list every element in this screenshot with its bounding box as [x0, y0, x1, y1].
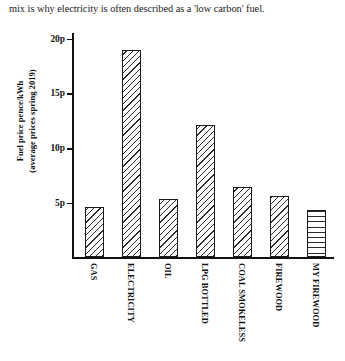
y-axis-tick-20p — [67, 39, 72, 41]
bar-my-firewood — [307, 210, 326, 257]
x-axis-label-lpg-bottled: LPG BOTTLED — [200, 263, 209, 324]
x-axis-label-coal-smokeless: COAL SMOKELESS — [237, 263, 246, 342]
y-axis-tick-10p — [67, 148, 72, 150]
y-axis-tick-label-5p: 5p — [55, 198, 65, 208]
bar-lpg-bottled — [196, 125, 215, 257]
y-axis-tick-15p — [67, 93, 72, 95]
y-axis-tick-label-15p: 15p — [50, 88, 65, 98]
x-axis-label-oil: OIL — [163, 263, 172, 279]
y-axis-tick-5p — [67, 203, 72, 205]
x-axis-label-my-firewood: MY FIREWOOD — [311, 263, 320, 327]
y-axis-tick-label-10p: 10p — [50, 143, 65, 153]
bar-electricity — [122, 50, 141, 258]
bar-coal-smokeless — [233, 187, 252, 257]
x-axis-label-firewood: FIREWOOD — [274, 263, 283, 311]
x-axis-label-electricity: ELECTRICITY — [126, 263, 135, 323]
y-axis-title-line-1: Fuel price pence/kWh — [15, 31, 27, 211]
y-axis-tick-label-20p: 20p — [50, 34, 65, 44]
bar-firewood — [270, 196, 289, 257]
x-axis-label-gas: GAS — [89, 263, 98, 281]
page-caption: mix is why electricity is often describe… — [9, 2, 339, 15]
bar-chart-figure: Fuel price pence/kWh (average prices spr… — [0, 20, 345, 361]
plot-area: 5p10p15p20p GASELECTRICITYOILLPG BOTTLED… — [72, 33, 334, 259]
y-axis-title-line-2: (average prices spring 2019) — [27, 31, 39, 211]
y-axis-title: Fuel price pence/kWh (average prices spr… — [15, 31, 41, 211]
bar-gas — [85, 207, 104, 257]
bar-oil — [159, 199, 178, 257]
y-axis-line — [72, 33, 74, 259]
